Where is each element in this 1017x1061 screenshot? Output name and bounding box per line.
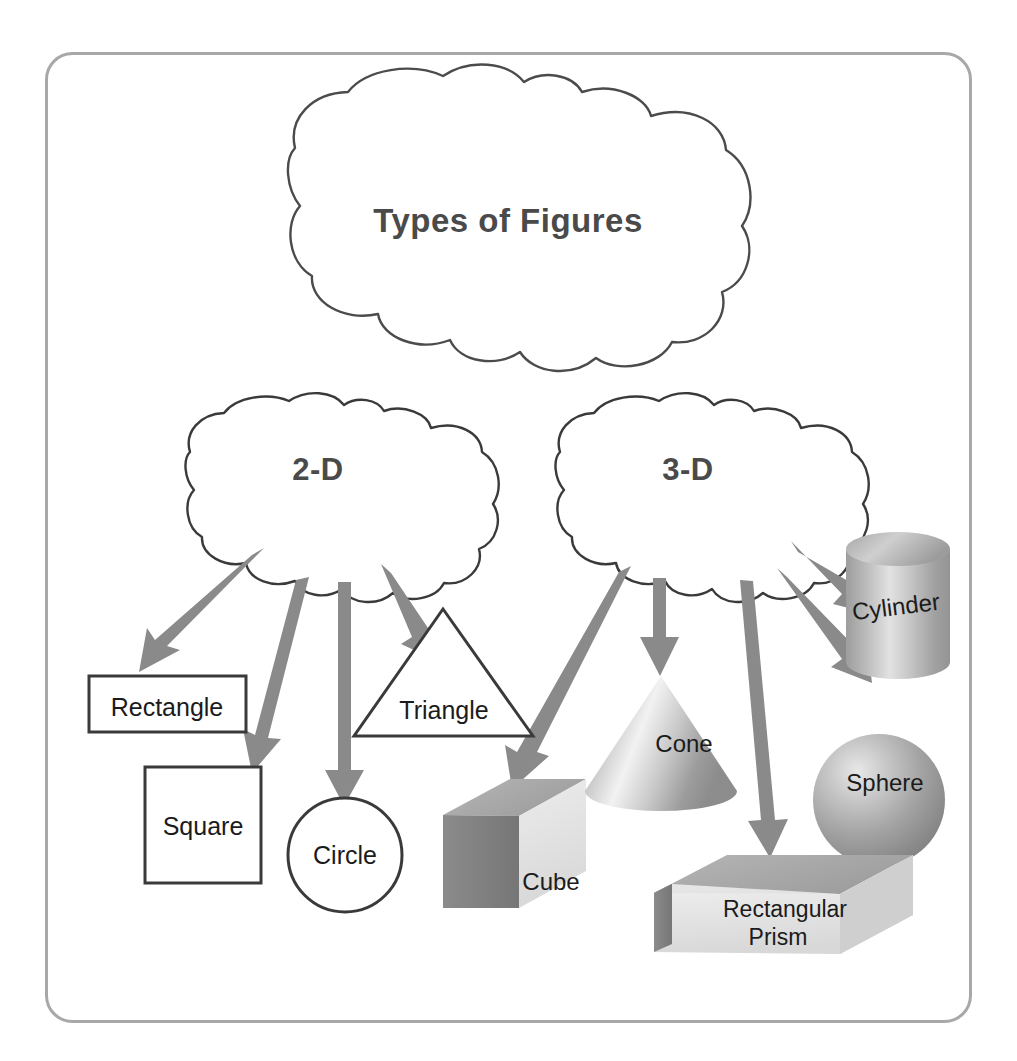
figure-canvas: Types of Figures 2-D 3-D Rect: [0, 0, 1017, 1061]
figure-sphere: Sphere: [813, 734, 945, 866]
figure-circle: Circle: [288, 798, 402, 912]
figure-prism-label-line2: Prism: [749, 924, 808, 950]
figure-cone-label: Cone: [655, 730, 712, 757]
figure-triangle-label: Triangle: [399, 696, 488, 724]
figure-square-label: Square: [163, 812, 244, 840]
figure-rectangle: Rectangle: [89, 676, 246, 732]
figure-cube-label: Cube: [522, 868, 579, 895]
figure-rectangle-label: Rectangle: [111, 693, 224, 721]
figure-prism-label-line1: Rectangular: [723, 896, 847, 922]
figure-cylinder: Cylinder: [846, 532, 950, 679]
cloud-2d-label: 2-D: [292, 452, 343, 487]
cloud-3d-label: 3-D: [662, 452, 713, 487]
cloud-title-label: Types of Figures: [373, 202, 643, 239]
figure-sphere-label: Sphere: [846, 769, 923, 796]
figure-square: Square: [145, 767, 261, 883]
figure-circle-label: Circle: [313, 841, 377, 869]
